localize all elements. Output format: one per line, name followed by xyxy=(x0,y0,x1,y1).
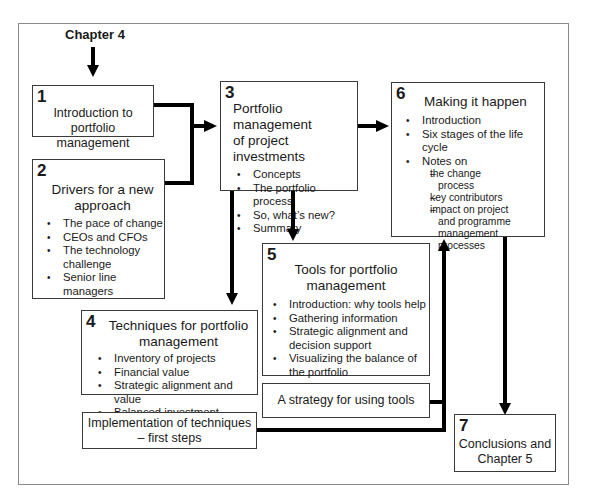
box-title-line: approach xyxy=(41,198,164,214)
box-number: 6 xyxy=(396,84,405,104)
chapter-4-label: Chapter 4 xyxy=(65,27,125,42)
box-title-line: management xyxy=(33,136,153,151)
box-title: Introduction to portfolio management xyxy=(33,106,153,151)
bullet-item-continuation: challenge xyxy=(41,258,164,272)
box-5-tools: 5 Tools for portfolio management Introdu… xyxy=(262,243,430,376)
box-number: 1 xyxy=(37,87,46,107)
box-number: 5 xyxy=(267,245,276,265)
bullet-item: Visualizing the balance of xyxy=(267,352,429,366)
sub-item: key contributors xyxy=(400,192,544,204)
box-title-line: Making it happen xyxy=(424,94,527,110)
bullet-item: Senior line xyxy=(41,271,164,285)
connector-3-to-5 xyxy=(291,191,295,229)
bullet-item: Financial value xyxy=(92,366,257,380)
box-title: Conclusions and Chapter 5 xyxy=(455,437,555,467)
box-strategy-for-using-tools: A strategy for using tools xyxy=(262,383,430,418)
arrow-into-box-4 xyxy=(226,293,238,305)
sub-item-continuation: and programme xyxy=(400,216,544,228)
box-title: Portfolio management of project investme… xyxy=(221,101,357,165)
connector-3-to-4 xyxy=(230,191,234,295)
box-title: Drivers for a new approach xyxy=(33,182,164,214)
box-3-portfolio-management: 3 Portfolio management of project invest… xyxy=(220,81,358,191)
box-7-conclusions: 7 Conclusions and Chapter 5 xyxy=(454,414,556,472)
box-bullet-list: Introduction: why tools help Gathering i… xyxy=(263,298,429,379)
box-title-line: Chapter 5 xyxy=(455,452,555,467)
box-title-line: Drivers for a new xyxy=(41,182,164,198)
connector-1-to-3 xyxy=(154,103,194,107)
box-number: 4 xyxy=(86,312,95,332)
bullet-item-continuation: the portfolio xyxy=(267,366,429,380)
bullet-item-continuation: managers xyxy=(41,285,164,299)
box-title-line: Techniques for portfolio xyxy=(100,318,257,334)
connector-up-to-6 xyxy=(442,250,446,432)
bullet-item: Six stages of the life xyxy=(400,128,544,142)
bullet-item: Strategic alignment and value xyxy=(92,379,257,406)
box-title-line: of project investments xyxy=(233,133,357,165)
bullet-item: CEOs and CFOs xyxy=(41,231,164,245)
box-title-line: Introduction to portfolio xyxy=(33,106,153,136)
arrow-into-box-5 xyxy=(287,229,299,241)
bullet-item: Concepts xyxy=(231,168,357,182)
bullet-item-continuation: cycle xyxy=(400,141,544,155)
box-bullet-list: Concepts The portfolio process So, what’… xyxy=(221,168,357,236)
start-arrow-shaft xyxy=(91,47,95,67)
box-title-line: Tools for portfolio xyxy=(263,262,429,278)
box-title-line: management xyxy=(100,334,257,350)
box-number: 2 xyxy=(37,161,46,181)
bullet-item: Notes on xyxy=(400,155,544,169)
bullet-item: Gathering information xyxy=(267,312,429,326)
connector-3-to-6 xyxy=(358,124,378,128)
bullet-item: Introduction xyxy=(400,114,544,128)
box-title: Techniques for portfolio management xyxy=(82,318,257,350)
box-title-line: management xyxy=(263,278,429,294)
box-title: Implementation of techniques – first ste… xyxy=(83,416,256,446)
box-title-line: – first steps xyxy=(83,431,256,446)
bullet-item: Introduction: why tools help xyxy=(267,298,429,312)
sub-item: the change xyxy=(400,168,544,180)
box-4-techniques: 4 Techniques for portfolio management In… xyxy=(81,310,258,395)
box-title: Tools for portfolio management xyxy=(263,262,429,294)
arrow-into-box-6-bottom xyxy=(438,239,450,251)
start-arrow-head xyxy=(87,65,99,77)
box-title-line: Conclusions and xyxy=(455,437,555,452)
sub-item: impact on project xyxy=(400,204,544,216)
box-title: A strategy for using tools xyxy=(263,393,429,408)
box-title-line: Portfolio management xyxy=(233,101,357,133)
box-implementation-first-steps: Implementation of techniques – first ste… xyxy=(82,412,257,449)
box-1-introduction: 1 Introduction to portfolio management xyxy=(32,85,154,137)
bullet-item-continuation: decision support xyxy=(267,339,429,353)
sub-item-continuation: process xyxy=(400,180,544,192)
bullet-item: The pace of change xyxy=(41,217,164,231)
connector-merge-vertical xyxy=(190,103,194,185)
connector-6-to-7 xyxy=(503,237,507,405)
box-title-line: Implementation of techniques xyxy=(83,416,256,431)
bullet-item: The technology xyxy=(41,244,164,258)
bullet-item: Strategic alignment and xyxy=(267,325,429,339)
box-number: 3 xyxy=(225,83,234,103)
arrow-into-box-3 xyxy=(204,120,217,132)
box-number: 7 xyxy=(459,416,468,436)
box-title: Making it happen xyxy=(424,94,527,110)
connector-impl-to-6 xyxy=(257,428,446,432)
box-bullet-list: The pace of change CEOs and CFOs The tec… xyxy=(33,217,164,298)
box-2-drivers: 2 Drivers for a new approach The pace of… xyxy=(32,159,165,299)
box-6-making-it-happen: 6 Making it happen Introduction Six stag… xyxy=(391,82,545,237)
box-bullet-list: Introduction Six stages of the life cycl… xyxy=(400,114,544,252)
bullet-item: Inventory of projects xyxy=(92,352,257,366)
connector-to-3-shaft xyxy=(190,124,204,128)
arrow-into-box-6 xyxy=(376,120,389,132)
